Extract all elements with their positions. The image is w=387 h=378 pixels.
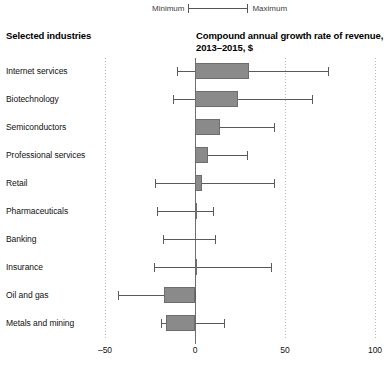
row-label-insurance: Insurance — [6, 262, 43, 272]
whisker-cap-min — [161, 319, 162, 328]
value-bar — [195, 147, 208, 163]
row-label-biotechnology: Biotechnology — [6, 94, 59, 104]
x-tick-label: 50 — [280, 345, 289, 355]
value-bar — [195, 91, 238, 107]
chart-row: Semiconductors — [0, 114, 387, 142]
chart-row: Insurance — [0, 254, 387, 282]
whisker-cap-max — [274, 179, 275, 188]
x-tick-0 — [195, 340, 196, 344]
row-label-pharmaceuticals: Pharmaceuticals — [6, 206, 68, 216]
chart-row: Pharmaceuticals — [0, 198, 387, 226]
whisker-cap-min — [173, 95, 174, 104]
value-bar — [195, 203, 197, 219]
chart-plot-area: Internet servicesBiotechnologySemiconduc… — [0, 58, 387, 340]
value-bar — [164, 287, 195, 303]
whisker-cap-max — [215, 235, 216, 244]
chart-legend: Minimum Maximum — [0, 4, 387, 18]
value-bar — [195, 175, 202, 191]
whisker-cap-min — [154, 263, 155, 272]
whisker-cap-max — [274, 123, 275, 132]
range-whisker — [157, 211, 213, 212]
row-label-metals-and-mining: Metals and mining — [6, 318, 74, 328]
range-whisker — [163, 239, 215, 240]
value-bar — [195, 63, 249, 79]
row-label-internet-services: Internet services — [6, 66, 68, 76]
legend-minimum-label: Minimum — [152, 4, 184, 13]
whisker-cap-min — [118, 291, 119, 300]
x-tick-label: 100 — [368, 345, 382, 355]
whisker-cap-max — [224, 319, 225, 328]
x-tick-50 — [285, 340, 286, 344]
x-tick-label: –50 — [98, 345, 112, 355]
range-whisker — [155, 183, 274, 184]
chart-row: Professional services — [0, 142, 387, 170]
value-bar — [166, 315, 195, 331]
whisker-cap-max — [312, 95, 313, 104]
x-tick--50 — [105, 340, 106, 344]
chart-row: Retail — [0, 170, 387, 198]
whisker-cap-min — [157, 207, 158, 216]
chart-row: Internet services — [0, 58, 387, 86]
x-tick-label: 0 — [193, 345, 198, 355]
range-whisker — [154, 267, 271, 268]
row-label-banking: Banking — [6, 234, 36, 244]
whisker-cap-min — [177, 67, 178, 76]
value-bar — [195, 119, 220, 135]
row-label-retail: Retail — [6, 178, 27, 188]
whisker-cap-min — [155, 179, 156, 188]
x-tick-100 — [375, 340, 376, 344]
x-axis: –50050100 — [0, 340, 387, 364]
chart-row: Metals and mining — [0, 310, 387, 338]
row-label-semiconductors: Semiconductors — [6, 122, 66, 132]
chart-title: Compound annual growth rate of revenue, … — [196, 30, 386, 54]
chart-row: Banking — [0, 226, 387, 254]
whisker-cap-max — [328, 67, 329, 76]
row-label-professional-services: Professional services — [6, 150, 85, 160]
whisker-cap-max — [247, 151, 248, 160]
whisker-cap-max — [195, 291, 196, 300]
left-column-heading: Selected industries — [6, 30, 91, 41]
range-rule-icon — [188, 4, 248, 13]
whisker-cap-min — [163, 235, 164, 244]
whisker-cap-max — [271, 263, 272, 272]
chart-row: Oil and gas — [0, 282, 387, 310]
whisker-cap-max — [213, 207, 214, 216]
value-bar — [195, 259, 197, 275]
chart-row: Biotechnology — [0, 86, 387, 114]
row-label-oil-and-gas: Oil and gas — [6, 290, 48, 300]
legend-maximum-label: Maximum — [252, 4, 287, 13]
